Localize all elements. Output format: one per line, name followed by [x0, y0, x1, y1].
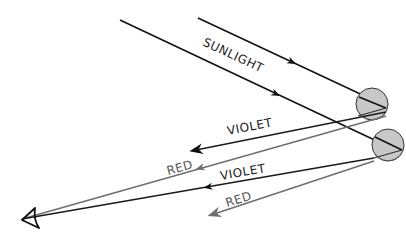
red-label-lower: RED — [224, 189, 254, 210]
rainbow-diagram: SUNLIGHT VIOLET RED VIOLET RED — [0, 0, 406, 246]
lower-drop-exit-rays — [22, 158, 374, 219]
sunlight-rays — [120, 18, 400, 152]
sunlight-label: SUNLIGHT — [201, 35, 266, 75]
violet-label-upper: VIOLET — [226, 115, 274, 138]
violet-ray-upper — [196, 112, 386, 150]
violet-label-lower: VIOLET — [219, 161, 267, 183]
lower-raindrop — [372, 129, 404, 161]
red-label-upper: RED — [165, 157, 194, 177]
